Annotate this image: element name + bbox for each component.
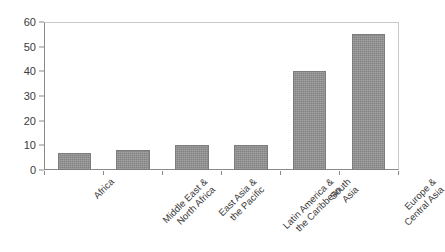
x-tick-mark (280, 171, 281, 175)
bar-middle-east-north-africa[interactable] (116, 150, 150, 170)
bar-south-asia[interactable] (293, 71, 327, 170)
y-tick-label-30: 30 (24, 91, 36, 102)
bar-slot (221, 22, 280, 170)
bar-latin-america-caribbean[interactable] (234, 145, 268, 170)
x-tick-label-africa: Africa (92, 176, 117, 201)
y-tick-label-40: 40 (24, 66, 36, 77)
x-tick-mark (44, 171, 45, 175)
bar-east-asia-pacific[interactable] (175, 145, 209, 170)
x-tick-label-middle-east-north-africa: Middle East &North Africa (160, 176, 217, 233)
bar-europe-central-asia[interactable] (352, 34, 386, 170)
y-axis-labels: 60 50 40 30 20 10 0 (0, 22, 36, 170)
x-tick-label-east-asia-pacific: East Asia &the Pacific (216, 176, 266, 226)
bars-layer (45, 22, 398, 170)
x-tick-mark (398, 171, 399, 175)
y-tick-label-60: 60 (24, 17, 36, 28)
y-tick-label-50: 50 (24, 41, 36, 52)
x-tick-label-line: Africa (92, 176, 117, 201)
x-tick-label-europe-central-asia: Europe &Central Asia (394, 176, 445, 228)
x-tick-mark (103, 171, 104, 175)
bar-africa[interactable] (58, 153, 92, 170)
bar-slot (45, 22, 104, 170)
bar-slot (104, 22, 163, 170)
y-tick-label-20: 20 (24, 115, 36, 126)
x-axis-labels: Africa Middle East &North Africa East As… (45, 176, 398, 252)
x-tick-mark (339, 171, 340, 175)
bar-slot (339, 22, 398, 170)
x-tick-mark (162, 171, 163, 175)
y-tick-label-0: 0 (30, 165, 36, 176)
y-tick-label-10: 10 (24, 140, 36, 151)
bar-slot (163, 22, 222, 170)
bar-slot (280, 22, 339, 170)
x-tick-mark (221, 171, 222, 175)
